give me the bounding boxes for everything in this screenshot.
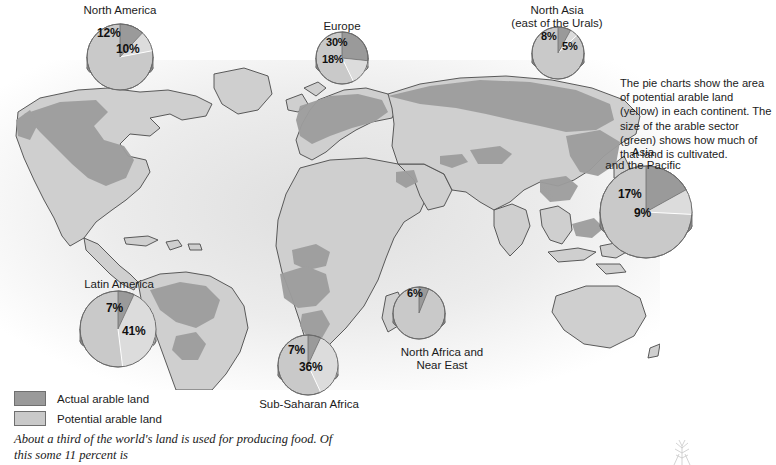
infographic-canvas: North America12%10%Europe30%18%North Asi…	[0, 0, 776, 465]
pie-title-line: Europe	[300, 20, 384, 33]
pie-value-potential-sub-saharan-africa: 36%	[299, 360, 322, 374]
pie-value-potential-north-asia: 5%	[562, 40, 578, 52]
pie-value-potential-north-america: 10%	[116, 42, 139, 56]
pie-title-line: Near East	[382, 359, 502, 372]
legend-label-actual: Actual arable land	[57, 393, 149, 405]
pie-title-line: Latin America	[60, 278, 178, 291]
pie-value-actual-sub-saharan-africa: 7%	[288, 343, 305, 357]
pie-title-line: North Asia	[497, 4, 617, 17]
legend-swatch-actual	[14, 391, 46, 406]
pie-value-actual-north-asia: 8%	[541, 30, 557, 42]
pie-title-north-america: North America	[60, 4, 180, 17]
pie-value-actual-latin-america: 7%	[106, 301, 123, 315]
pie-title-line: North Africa and	[382, 346, 502, 359]
wheat-sketch-icon	[662, 438, 702, 465]
pie-value-actual-north-america: 12%	[97, 26, 120, 40]
pie-title-north-asia: North Asia(east of the Urals)	[497, 4, 617, 30]
pie-title-europe: Europe	[300, 20, 384, 33]
pie-title-line: Sub-Saharan Africa	[239, 398, 379, 411]
pie-title-sub-saharan-africa: Sub-Saharan Africa	[239, 398, 379, 411]
pie-value-actual-europe: 30%	[326, 36, 347, 48]
pie-title-north-africa-near-east: North Africa andNear East	[382, 346, 502, 372]
pie-title-line: North America	[60, 4, 180, 17]
pie-title-line: (east of the Urals)	[497, 17, 617, 30]
pie-title-latin-america: Latin America	[60, 278, 178, 291]
body-caption: About a third of the world's land is use…	[14, 432, 344, 463]
pie-value-potential-latin-america: 41%	[122, 324, 145, 338]
legend-item-potential: Potential arable land	[14, 410, 162, 427]
pie-value-potential-europe: 18%	[322, 53, 343, 65]
pie-value-potential-asia-pacific: 9%	[634, 206, 651, 220]
pie-value-actual-north-africa-near-east: 6%	[407, 287, 423, 299]
pie-value-actual-asia-pacific: 17%	[618, 187, 641, 201]
legend-swatch-potential	[14, 411, 46, 426]
legend-label-potential: Potential arable land	[57, 413, 162, 425]
chart-explanation-note: The pie charts show the area of potentia…	[620, 76, 772, 161]
legend-item-actual: Actual arable land	[14, 390, 162, 407]
legend: Actual arable land Potential arable land	[14, 390, 162, 430]
pie-chart-north-america	[63, 0, 177, 125]
